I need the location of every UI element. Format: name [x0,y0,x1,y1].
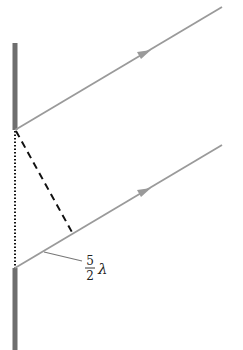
path-difference-label: 5 2 λ [85,254,108,283]
label-leader-line [44,252,82,261]
upper-barrier [13,43,18,130]
lower-ray-arrow-icon [137,188,151,197]
lower-barrier [13,268,18,350]
upper-ray [15,7,222,130]
label-denominator: 2 [86,269,94,283]
label-lambda: λ [97,260,108,278]
lower-ray [15,145,222,268]
double-slit-diagram: 5 2 λ [0,0,243,350]
upper-ray-arrow-icon [137,50,151,59]
label-numerator: 5 [86,254,94,268]
path-difference-dashed-line [16,131,73,234]
